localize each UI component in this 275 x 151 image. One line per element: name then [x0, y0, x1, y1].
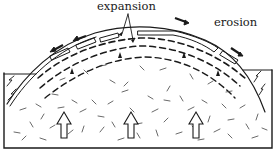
uplift-arrow-1: [57, 112, 71, 138]
uplift-arrow-2: [124, 112, 138, 138]
label-erosion: erosion: [214, 17, 257, 29]
dome-surface: [7, 27, 265, 112]
uplift-arrow-3: [189, 112, 203, 138]
slab-4: [138, 31, 218, 52]
section-frame: [4, 70, 272, 148]
slab-3: [100, 33, 119, 42]
uplift-arrows: [57, 112, 203, 138]
diagram-canvas: expansion erosion: [0, 0, 275, 151]
label-expansion: expansion: [97, 1, 156, 13]
